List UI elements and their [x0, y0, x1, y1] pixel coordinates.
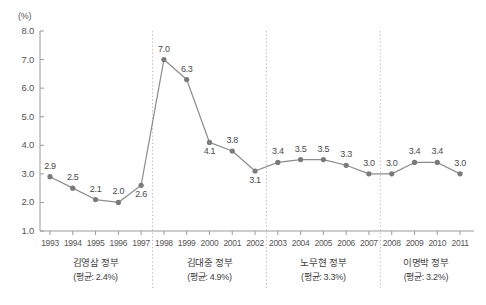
y-tick-label: 8.0 [10, 25, 34, 36]
era-average: (평균: 4.9%) [154, 271, 264, 285]
point-value-label: 2.5 [58, 172, 88, 182]
era-average: (평균: 3.3%) [268, 271, 378, 285]
era-label: 노무현 정부(평균: 3.3%) [268, 256, 378, 285]
era-name: 김영삼 정부 [41, 256, 151, 271]
point-value-label: 6.3 [172, 64, 202, 74]
y-tick-label: 2.0 [10, 196, 34, 207]
point-value-label: 2.9 [35, 161, 65, 171]
y-tick-label: 7.0 [10, 54, 34, 65]
era-name: 이명박 정부 [371, 256, 481, 271]
x-axis-ticks [50, 231, 460, 235]
x-tick-label: 2011 [443, 238, 477, 248]
era-label: 이명박 정부(평균: 3.2%) [371, 256, 481, 285]
y-tick-label: 4.0 [10, 139, 34, 150]
era-average: (평균: 3.2%) [371, 271, 481, 285]
point-value-label: 3.0 [377, 158, 407, 168]
y-tick-label: 3.0 [10, 168, 34, 179]
point-value-label: 3.1 [240, 175, 270, 185]
point-value-label: 3.8 [217, 135, 247, 145]
y-tick-label: 5.0 [10, 111, 34, 122]
era-name: 김대중 정부 [154, 256, 264, 271]
era-label: 김영삼 정부(평균: 2.4%) [41, 256, 151, 285]
point-value-label: 3.0 [445, 158, 475, 168]
point-value-label: 3.4 [422, 146, 452, 156]
y-tick-label: 6.0 [10, 82, 34, 93]
point-value-label: 7.0 [149, 44, 179, 54]
line-chart: (%) 8.07.06.05.04.03.02.01.0 19931994199… [0, 0, 486, 305]
y-axis-ticks [40, 31, 44, 231]
era-name: 노무현 정부 [268, 256, 378, 271]
point-value-label: 2.6 [126, 189, 156, 199]
point-value-label: 4.1 [194, 146, 224, 156]
era-label: 김대중 정부(평균: 4.9%) [154, 256, 264, 285]
era-average: (평균: 2.4%) [41, 271, 151, 285]
y-tick-label: 1.0 [10, 225, 34, 236]
